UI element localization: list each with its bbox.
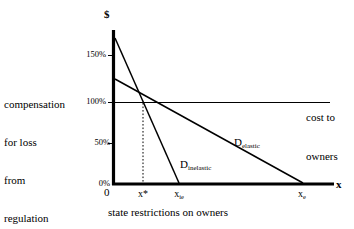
- curve-label-elastic-sub: elastic: [242, 142, 260, 150]
- curve-label-inelastic-sub: inelastic: [188, 164, 211, 172]
- demand-inelastic-curve: [115, 38, 179, 183]
- x-tick-label-x-star: x*: [131, 188, 155, 199]
- curve-label-elastic: Delastic: [234, 136, 260, 149]
- x-tick-e-sub: e: [303, 193, 306, 200]
- x-axis-caption: state restrictions on owners: [108, 206, 228, 218]
- y-tick-label-50: 50%: [76, 138, 110, 148]
- x-tick-label-x-ie: xie: [166, 188, 192, 199]
- y-axis-description: compensation for loss from regulation: [4, 73, 76, 229]
- cost-to-owners-label: cost to owners: [306, 85, 338, 189]
- y-axis-description-line-4: regulation: [4, 212, 76, 226]
- curve-label-elastic-main: D: [234, 136, 242, 148]
- y-tick-label-0: 0%: [76, 179, 110, 189]
- x-tick-ie-sub: ie: [179, 193, 184, 200]
- cost-to-owners-line-1: cost to: [306, 111, 338, 124]
- y-tick-label-150: 150%: [72, 50, 106, 60]
- y-tick-label-100: 100%: [72, 97, 106, 107]
- cost-to-owners-line-2: owners: [306, 150, 338, 163]
- chart-figure: $ x 0 150% 100% 50% 0% x* xie xe compens…: [0, 0, 354, 229]
- curve-label-inelastic: Dinelastic: [180, 158, 211, 171]
- y-axis-description-line-1: compensation: [4, 98, 76, 112]
- y-axis-description-line-3: from: [4, 174, 76, 188]
- y-axis-currency-symbol: $: [104, 8, 110, 20]
- x-tick-label-x-e: xe: [290, 188, 314, 199]
- curve-label-inelastic-main: D: [180, 158, 188, 170]
- y-axis-description-line-2: for loss: [4, 136, 76, 150]
